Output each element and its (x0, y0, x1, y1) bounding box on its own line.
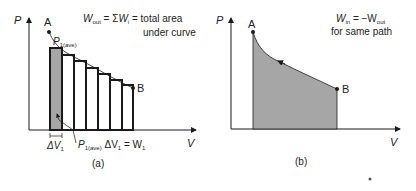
caption-a: (a) (92, 158, 104, 169)
x-axis-label: V (390, 136, 399, 148)
caption-b: (b) (295, 156, 307, 167)
y-axis-label: P (14, 14, 22, 26)
work-in-equation-line2: for same path (331, 26, 392, 37)
point-a-label: A (248, 18, 256, 30)
point-b-dot (131, 86, 135, 90)
work-out-equation: Wout = ΣWi = total area (83, 13, 183, 25)
panel-b: P V A B Win = −Wout for same path (b) (216, 13, 400, 167)
delta-v1-label: ΔV1 (46, 140, 64, 152)
bars (62, 55, 133, 130)
point-a-label: A (44, 16, 52, 28)
p1ave-label: P1(ave) (53, 36, 77, 48)
y-axis-label: P (216, 14, 224, 26)
stray-dot (369, 178, 372, 181)
pv-diagrams: P V A B P1(ave) Wout = ΣWi = total area … (0, 0, 416, 191)
point-b-dot (335, 87, 339, 91)
point-b-label: B (137, 82, 144, 94)
shaded-bar (50, 48, 62, 130)
work-in-equation: Win = −Wout (336, 13, 385, 25)
work-out-equation-line2: under curve (143, 27, 196, 38)
point-b-label: B (342, 83, 349, 95)
work-1-equation: P1(ave) ΔV1 = W1 (78, 139, 146, 151)
panel-a: P V A B P1(ave) Wout = ΣWi = total area … (14, 13, 196, 169)
shaded-area (253, 32, 337, 129)
point-a-dot (251, 30, 255, 34)
point-a-dot (47, 30, 51, 34)
x-axis-label: V (187, 137, 196, 149)
